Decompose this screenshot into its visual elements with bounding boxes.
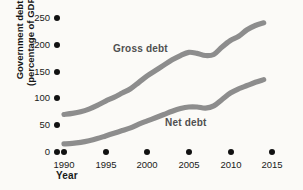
debt-line-chart: Government debt (percentage of GDP) 250 … <box>0 0 303 190</box>
series-line-gross-debt <box>64 23 264 115</box>
plot-area <box>0 0 303 190</box>
series-line-net-debt <box>64 80 264 144</box>
